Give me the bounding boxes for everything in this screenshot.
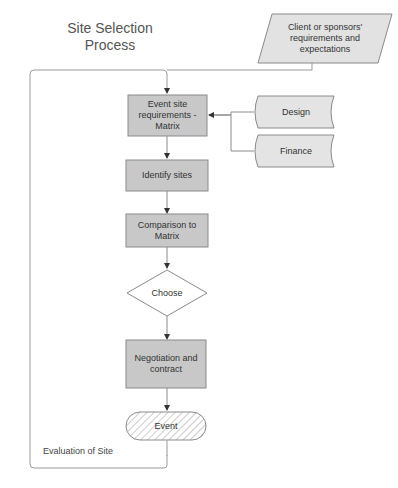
evaluation-label: Evaluation of Site [43, 446, 113, 456]
comparison-node: Comparison to Matrix [130, 214, 204, 247]
choose-node: Choose [127, 270, 207, 316]
client-connector [167, 63, 312, 70]
identify-node: Identify sites [126, 160, 208, 191]
requirements-node: Event site requirements - Matrix [130, 95, 205, 136]
negotiation-node: Negotiation and contract [130, 340, 202, 388]
client-node: Client or sponsors' requirements and exp… [272, 14, 378, 63]
event-node: Event [126, 412, 206, 440]
finance-node: Finance [258, 135, 334, 167]
design-finance-connector [209, 112, 254, 151]
design-node: Design [258, 96, 334, 128]
diagram-title: Site Selection Process [40, 20, 180, 54]
